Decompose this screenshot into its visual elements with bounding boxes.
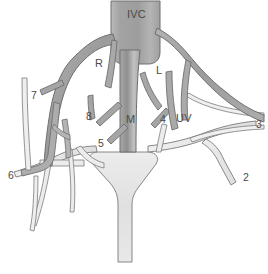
portal-limb-segment-2 <box>202 139 236 185</box>
label-umbilical-vein: UV <box>176 113 192 124</box>
vessel-illustration <box>0 0 268 274</box>
portal-vein-main-trunk <box>90 152 158 262</box>
tributary-segment-8 <box>96 102 122 126</box>
tributary-right-upper <box>105 40 117 88</box>
label-segment-4: 4 <box>160 114 166 125</box>
label-segment-5: 5 <box>98 138 104 149</box>
label-segment-3: 3 <box>256 119 262 130</box>
peripheral-left-long <box>22 78 31 170</box>
label-segment-6: 6 <box>8 170 14 181</box>
label-segment-8: 8 <box>86 111 92 122</box>
label-left-hepatic-vein: L <box>156 65 162 76</box>
label-right-hepatic-vein: R <box>95 58 103 69</box>
label-segment-7: 7 <box>31 90 37 101</box>
portal-descending-left-b <box>68 149 75 212</box>
middle-hepatic-vein <box>120 50 140 152</box>
label-ivc: IVC <box>127 9 146 20</box>
hepatic-vein-system <box>21 1 264 176</box>
left-hv-descending-branch <box>181 60 191 120</box>
label-segment-2: 2 <box>243 172 249 183</box>
tributary-middle-right <box>140 72 162 110</box>
anatomy-diagram: IVC R L M UV 8 7 6 5 4 3 2 <box>0 0 268 274</box>
label-middle-hepatic-vein: M <box>126 114 135 125</box>
